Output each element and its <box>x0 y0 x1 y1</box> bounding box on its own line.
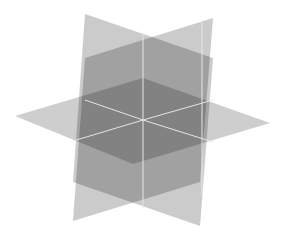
diagram-canvas <box>0 0 287 234</box>
planes-diagram <box>0 0 287 234</box>
